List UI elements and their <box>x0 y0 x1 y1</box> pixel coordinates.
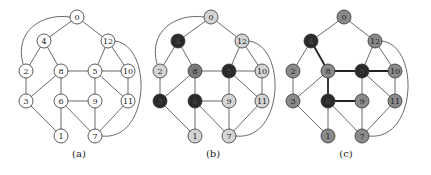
node-4: 4 <box>304 34 318 48</box>
panel-caption: (a) <box>72 148 86 159</box>
panel-caption: (c) <box>339 148 353 159</box>
node-label: 2 <box>23 67 28 76</box>
edge-3-1 <box>26 101 61 136</box>
node-label: 8 <box>58 67 63 76</box>
node-label: 3 <box>157 97 162 106</box>
node-label: 0 <box>208 13 213 22</box>
node-2: 2 <box>286 64 300 78</box>
node-11: 11 <box>255 94 269 108</box>
node-10: 10 <box>388 64 402 78</box>
node-8: 8 <box>54 64 68 78</box>
node-label: 5 <box>92 67 97 76</box>
node-10: 10 <box>121 64 135 78</box>
node-label: 6 <box>192 97 197 106</box>
node-10: 10 <box>255 64 269 78</box>
node-label: 5 <box>226 67 231 76</box>
edge-3-1 <box>293 101 328 136</box>
panel-caption: (b) <box>206 148 220 159</box>
node-label: 1 <box>58 132 63 141</box>
edge-3-1 <box>160 101 195 136</box>
node-6: 6 <box>321 94 335 108</box>
node-label: 2 <box>290 67 295 76</box>
node-12: 12 <box>101 34 115 48</box>
node-7: 7 <box>88 129 102 143</box>
node-label: 7 <box>359 132 364 141</box>
node-1: 1 <box>54 129 68 143</box>
node-9: 9 <box>355 94 369 108</box>
node-4: 4 <box>171 34 185 48</box>
node-label: 9 <box>226 97 231 106</box>
node-label: 3 <box>290 97 295 106</box>
node-label: 8 <box>192 67 197 76</box>
node-6: 6 <box>188 94 202 108</box>
node-8: 8 <box>188 64 202 78</box>
node-3: 3 <box>153 94 167 108</box>
graph-figure: 0412285103691117(a)0412285103691117(b)04… <box>0 0 431 175</box>
node-1: 1 <box>321 129 335 143</box>
node-label: 12 <box>103 37 113 46</box>
node-9: 9 <box>88 94 102 108</box>
node-label: 7 <box>92 132 97 141</box>
node-0: 0 <box>204 10 218 24</box>
node-label: 6 <box>325 97 330 106</box>
node-label: 11 <box>123 97 133 106</box>
node-label: 12 <box>237 37 247 46</box>
node-5: 5 <box>88 64 102 78</box>
panel-b: 0412285103691117(b) <box>153 10 275 159</box>
node-2: 2 <box>153 64 167 78</box>
node-label: 10 <box>390 67 400 76</box>
node-label: 1 <box>192 132 197 141</box>
node-0: 0 <box>337 10 351 24</box>
node-label: 4 <box>41 37 46 46</box>
node-label: 12 <box>370 37 380 46</box>
node-label: 6 <box>58 97 63 106</box>
node-7: 7 <box>222 129 236 143</box>
node-0: 0 <box>70 10 84 24</box>
node-3: 3 <box>19 94 33 108</box>
node-label: 3 <box>23 97 28 106</box>
node-1: 1 <box>188 129 202 143</box>
node-label: 9 <box>359 97 364 106</box>
node-label: 7 <box>226 132 231 141</box>
node-label: 9 <box>92 97 97 106</box>
node-label: 11 <box>390 97 400 106</box>
node-7: 7 <box>355 129 369 143</box>
node-label: 8 <box>325 67 330 76</box>
node-5: 5 <box>222 64 236 78</box>
node-12: 12 <box>368 34 382 48</box>
node-label: 0 <box>74 13 79 22</box>
node-label: 5 <box>359 67 364 76</box>
node-11: 11 <box>388 94 402 108</box>
panel-c: 0412285103691117(c) <box>286 10 408 159</box>
node-label: 4 <box>308 37 313 46</box>
node-label: 10 <box>123 67 133 76</box>
node-2: 2 <box>19 64 33 78</box>
node-label: 4 <box>175 37 180 46</box>
node-12: 12 <box>235 34 249 48</box>
node-11: 11 <box>121 94 135 108</box>
node-8: 8 <box>321 64 335 78</box>
node-6: 6 <box>54 94 68 108</box>
node-4: 4 <box>37 34 51 48</box>
node-label: 2 <box>157 67 162 76</box>
node-5: 5 <box>355 64 369 78</box>
node-3: 3 <box>286 94 300 108</box>
node-label: 1 <box>325 132 330 141</box>
panel-a: 0412285103691117(a) <box>19 10 141 159</box>
node-label: 11 <box>257 97 267 106</box>
node-9: 9 <box>222 94 236 108</box>
node-label: 0 <box>341 13 346 22</box>
node-label: 10 <box>257 67 267 76</box>
